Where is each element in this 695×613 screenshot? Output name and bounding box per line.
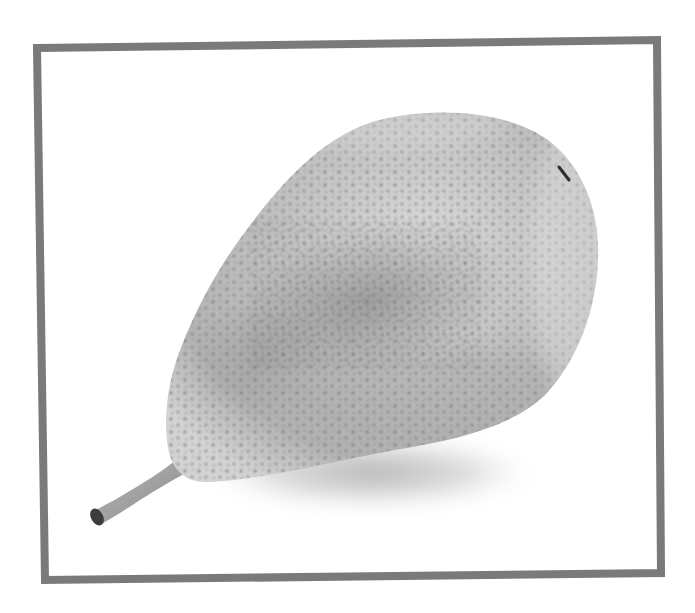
pear-photo bbox=[0, 0, 695, 613]
pear-body bbox=[150, 100, 650, 500]
photo-scene: pear bbox=[0, 0, 695, 613]
pear-stem bbox=[87, 458, 188, 528]
